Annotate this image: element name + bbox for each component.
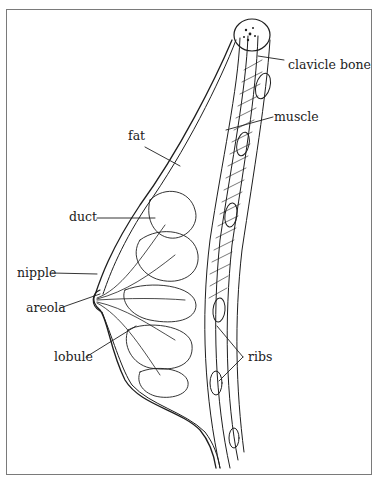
leader-lobule (86, 326, 136, 357)
breast-anatomy-illustration (0, 0, 379, 483)
label-duct: duct (69, 211, 97, 224)
leader-nipple (52, 273, 97, 274)
label-fat: fat (128, 130, 145, 143)
label-lobule: lobule (54, 351, 93, 364)
leader-ribs-b (219, 357, 243, 381)
leader-clavicle (258, 56, 284, 60)
leader-fat (145, 147, 180, 166)
label-clavicle-bone: clavicle bone (288, 59, 371, 72)
label-areola: areola (26, 302, 66, 315)
leader-ribs-a (217, 326, 243, 357)
label-nipple: nipple (17, 267, 56, 280)
skin-outline (94, 40, 232, 468)
label-muscle: muscle (274, 111, 319, 124)
clavicle-bone (234, 19, 270, 51)
label-ribs: ribs (248, 351, 272, 364)
